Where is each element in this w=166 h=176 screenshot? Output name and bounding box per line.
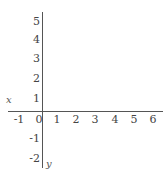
- x-tick-5: 5: [126, 114, 142, 125]
- x-tick-4: 4: [107, 114, 123, 125]
- y-tick-3: 3: [26, 53, 40, 64]
- x-tick-2: 2: [68, 114, 84, 125]
- y-tick-5: 5: [26, 16, 40, 27]
- y-tick-4: 4: [26, 34, 40, 45]
- x-tick-1: 1: [49, 114, 65, 125]
- y-tick-neg1: -1: [26, 133, 40, 144]
- y-axis-line: [42, 12, 43, 168]
- x-tick-neg1: -1: [11, 114, 27, 125]
- y-tick-1: 1: [26, 93, 40, 104]
- x-tick-0: 0: [31, 114, 47, 125]
- x-tick-6: 6: [145, 114, 161, 125]
- x-tick-3: 3: [87, 114, 103, 125]
- y-tick-2: 2: [26, 73, 40, 84]
- y-tick-neg2: -2: [26, 153, 40, 164]
- x-axis-label: x: [6, 94, 12, 105]
- x-axis-line: [8, 111, 163, 112]
- y-axis-label: y: [46, 158, 52, 169]
